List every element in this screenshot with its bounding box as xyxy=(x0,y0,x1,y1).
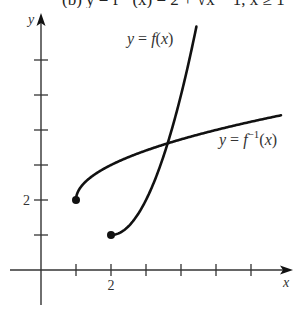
graph-f-and-inverse: 22xyy = f(x)y = f−1(x) xyxy=(0,0,302,312)
f-start-point xyxy=(107,231,115,239)
label-f-inverse: y = f−1(x) xyxy=(217,128,277,149)
label-f: y = f(x) xyxy=(125,30,173,48)
y-tick-label: 2 xyxy=(23,193,30,208)
x-axis-label: x xyxy=(282,275,290,290)
curve-f xyxy=(111,27,196,235)
x-tick-label: 2 xyxy=(108,278,115,293)
f-inverse-start-point xyxy=(72,196,80,204)
y-axis-label: y xyxy=(26,12,35,27)
